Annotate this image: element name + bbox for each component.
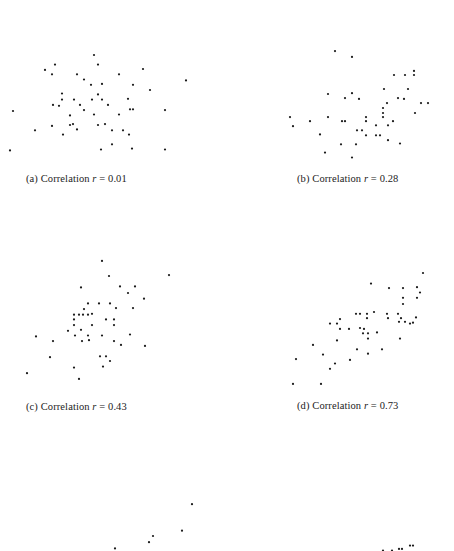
scatter-point bbox=[108, 275, 110, 277]
scatter-point bbox=[181, 530, 183, 532]
scatter-point bbox=[101, 260, 103, 262]
caption-value: 0.01 bbox=[108, 173, 127, 184]
scatter-point bbox=[295, 358, 297, 360]
scatter-point bbox=[416, 286, 418, 288]
scatter-point bbox=[111, 143, 113, 145]
scatter-point bbox=[382, 116, 384, 118]
scatter-point bbox=[105, 355, 107, 357]
caption-tag: (b) bbox=[297, 173, 310, 184]
scatter-point bbox=[292, 125, 294, 127]
scatter-point bbox=[104, 123, 106, 125]
caption-equals: = bbox=[371, 400, 377, 411]
scatter-point bbox=[144, 345, 146, 347]
scatter-point bbox=[375, 134, 377, 136]
scatter-point bbox=[118, 73, 120, 75]
scatter-point bbox=[191, 503, 193, 505]
scatter-panel-d bbox=[292, 272, 424, 385]
scatter-point bbox=[102, 366, 104, 368]
scatter-point bbox=[127, 292, 129, 294]
scatter-point bbox=[366, 313, 368, 315]
scatter-point bbox=[362, 332, 364, 334]
scatter-point bbox=[349, 359, 351, 361]
scatter-point bbox=[142, 68, 144, 70]
scatter-point bbox=[340, 143, 342, 145]
scatter-point bbox=[35, 335, 37, 337]
scatter-point bbox=[402, 303, 404, 305]
caption-variable: r bbox=[92, 401, 96, 412]
scatter-point bbox=[334, 362, 336, 364]
caption-tag: (c) bbox=[26, 401, 38, 412]
caption-prefix: Correlation bbox=[312, 173, 361, 184]
caption-equals: = bbox=[371, 173, 377, 184]
scatter-point bbox=[76, 73, 78, 75]
scatter-point bbox=[387, 317, 389, 319]
scatter-point bbox=[185, 79, 187, 81]
scatter-point bbox=[129, 108, 131, 110]
scatter-point bbox=[355, 313, 357, 315]
scatter-point bbox=[69, 124, 71, 126]
caption-prefix: Correlation bbox=[41, 173, 90, 184]
scatter-point bbox=[87, 302, 89, 304]
scatter-point bbox=[34, 129, 36, 131]
scatter-point bbox=[80, 286, 82, 288]
scatter-point bbox=[143, 298, 145, 300]
scatter-point bbox=[412, 545, 414, 547]
scatter-point bbox=[375, 124, 377, 126]
scatter-point bbox=[97, 64, 99, 66]
scatter-point bbox=[98, 302, 100, 304]
scatter-point bbox=[329, 323, 331, 325]
scatter-point bbox=[365, 120, 367, 122]
scatter-point bbox=[87, 334, 89, 336]
scatter-point bbox=[400, 317, 402, 319]
scatter-point bbox=[422, 272, 424, 274]
caption-value: 0.73 bbox=[380, 400, 399, 411]
scatter-point bbox=[78, 314, 80, 316]
scatter-point bbox=[336, 323, 338, 325]
scatter-point bbox=[402, 297, 404, 299]
scatter-point bbox=[392, 120, 394, 122]
caption-equals: = bbox=[99, 401, 105, 412]
scatter-point bbox=[398, 321, 400, 323]
scatter-point bbox=[387, 139, 389, 141]
scatter-point bbox=[91, 324, 93, 326]
caption-panel-d: (d) Correlation r = 0.73 bbox=[297, 400, 398, 411]
scatter-point bbox=[49, 356, 51, 358]
scatter-point bbox=[367, 353, 369, 355]
scatter-point bbox=[61, 92, 63, 94]
scatter-point bbox=[402, 287, 404, 289]
scatter-point bbox=[419, 291, 421, 293]
scatter-point bbox=[127, 98, 129, 100]
caption-tag: (d) bbox=[297, 400, 310, 411]
scatter-point bbox=[52, 340, 54, 342]
scatter-point bbox=[409, 323, 411, 325]
scatter-point bbox=[386, 102, 388, 104]
scatter-point bbox=[83, 78, 85, 80]
scatter-point bbox=[339, 328, 341, 330]
scatter-point bbox=[404, 74, 406, 76]
scatter-point bbox=[351, 92, 353, 94]
scatter-point bbox=[90, 84, 92, 86]
scatter-point bbox=[403, 98, 405, 100]
scatter-point bbox=[78, 378, 80, 380]
scatter-point bbox=[101, 83, 103, 85]
scatter-point bbox=[399, 142, 401, 144]
scatter-point bbox=[93, 54, 95, 56]
scatter-point bbox=[113, 340, 115, 342]
scatter-point bbox=[413, 74, 415, 76]
scatter-point bbox=[334, 50, 336, 52]
scatter-point bbox=[387, 124, 389, 126]
scatter-point bbox=[367, 332, 369, 334]
scatter-point bbox=[73, 99, 75, 101]
caption-prefix: Correlation bbox=[41, 401, 90, 412]
scatter-point bbox=[129, 333, 131, 335]
scatter-point bbox=[83, 308, 85, 310]
scatter-point bbox=[164, 109, 166, 111]
scatter-point bbox=[409, 545, 411, 547]
scatter-point bbox=[76, 128, 78, 130]
scatter-point bbox=[363, 328, 365, 330]
scatter-point bbox=[88, 339, 90, 341]
scatter-point bbox=[73, 318, 75, 320]
scatter-point bbox=[51, 125, 53, 127]
scatter-point bbox=[427, 102, 429, 104]
scatter-panel-b bbox=[289, 50, 429, 159]
